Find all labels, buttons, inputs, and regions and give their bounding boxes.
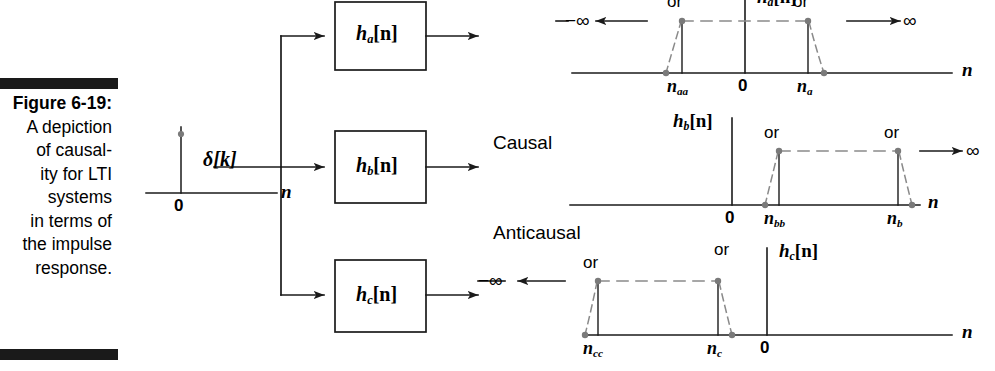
- plot-a-response-label-tail: [n]: [773, 0, 796, 7]
- plot-a-right-infinity-label: ∞: [903, 10, 917, 32]
- plot-c-tick-left-label: ncc: [583, 338, 603, 359]
- block-a-label-tail: [n]: [373, 22, 397, 44]
- plot-b-right-infinity-label: ∞: [966, 140, 980, 162]
- plot-b-tick-right-base: n: [887, 208, 897, 228]
- figure-container: Figure 6-19: A depiction of causal- ity …: [0, 0, 995, 371]
- plot-c-axis-label: n: [962, 321, 973, 343]
- plot-b-response-label: hb[n]: [673, 110, 713, 134]
- input-axis-label: n: [281, 181, 292, 203]
- plot-a-response-label: ha[n]: [757, 0, 797, 10]
- plot-b-response-label-tail: [n]: [689, 110, 712, 131]
- plot-a-origin-label: 0: [738, 76, 747, 96]
- plot-a-tick-left-label: naa: [667, 76, 688, 97]
- plot-b-tick-right-label: nb: [887, 208, 903, 229]
- plot-c-tick-left-sub: cc: [593, 347, 603, 359]
- plot-a-left-infinity-label: −∞: [565, 10, 590, 32]
- plot-c-tick-right-base: n: [707, 338, 717, 358]
- plot-c-response-label-base: h: [779, 240, 790, 261]
- plot-c-or-left-label: or: [583, 253, 598, 273]
- plot-b-tick-left-sub: bb: [774, 217, 785, 229]
- plot-b-tick-left-base: n: [764, 208, 774, 228]
- plot-c-response-label-tail: [n]: [795, 240, 818, 261]
- block-a-label-base: h: [356, 22, 367, 44]
- row-label-causal: Causal: [493, 132, 552, 154]
- block-a-label: ha[n]: [356, 22, 398, 47]
- block-c-label: hc[n]: [356, 283, 397, 308]
- plot-a-tick-right-sub: a: [807, 85, 813, 97]
- plot-a-tick-left-base: n: [667, 76, 677, 96]
- plot-a-tick-right-base: n: [797, 76, 807, 96]
- plot-b-origin-label: 0: [725, 208, 734, 228]
- plot-c-response-label: hc[n]: [779, 240, 818, 264]
- plot-c-or-right-label: or: [714, 240, 729, 260]
- plot-c-left-infinity-label: −∞: [478, 270, 503, 292]
- plot-c-tick-right-sub: c: [717, 347, 722, 359]
- row-label-anticausal: Anticausal: [493, 222, 581, 244]
- input-signal-label: δ[k]: [203, 148, 237, 171]
- plot-b-response-label-base: h: [673, 110, 684, 131]
- block-c-label-base: h: [356, 283, 367, 305]
- plot-a-axis-label: n: [962, 59, 973, 81]
- plot-b-axis-label: n: [928, 191, 939, 213]
- block-b-label-base: h: [356, 154, 367, 176]
- diagram-vector-layer: [0, 0, 995, 371]
- plot-c-tick-right-label: nc: [707, 338, 722, 359]
- plot-b-or-left-label: or: [764, 123, 779, 143]
- plot-a-geometry: [556, 0, 952, 76]
- plot-b-tick-right-sub: b: [897, 217, 903, 229]
- block-c-label-tail: [n]: [373, 283, 397, 305]
- plot-a-or-left-label: or: [667, 0, 682, 12]
- input-origin-label: 0: [174, 196, 183, 216]
- plot-a-tick-left-sub: aa: [677, 85, 688, 97]
- plot-b-tick-left-label: nbb: [764, 208, 785, 229]
- plot-c-geometry: [478, 248, 952, 338]
- plot-b-or-right-label: or: [884, 123, 899, 143]
- plot-c-tick-left-base: n: [583, 338, 593, 358]
- plot-c-origin-label: 0: [760, 338, 769, 358]
- plot-a-response-label-base: h: [757, 0, 768, 7]
- block-b-label: hb[n]: [356, 154, 398, 179]
- plot-a-tick-right-label: na: [797, 76, 813, 97]
- block-b-label-tail: [n]: [373, 154, 397, 176]
